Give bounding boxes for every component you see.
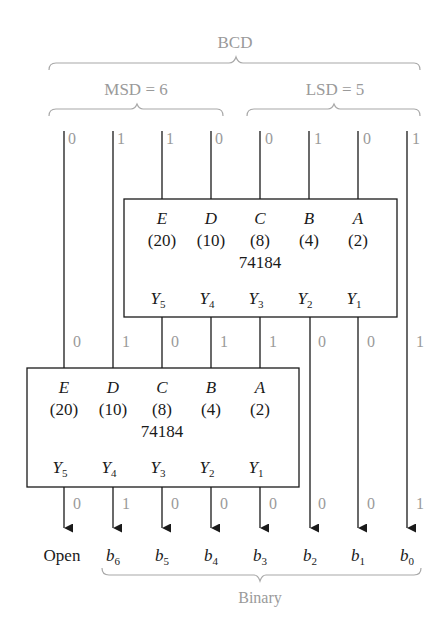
mid-bit: 1 xyxy=(122,333,130,350)
bcd-bit: 0 xyxy=(265,130,273,147)
chip-upper-74184: E D C B A (20) (10) (8) (4) (2) 74184 Y5… xyxy=(124,199,397,317)
b1-label: b1 xyxy=(351,546,365,567)
chip-part-number: 74184 xyxy=(141,422,184,441)
msd-brace xyxy=(49,104,223,116)
weight-d: (10) xyxy=(197,231,225,250)
mid-bits: 0 1 0 1 1 0 0 1 xyxy=(73,333,424,350)
bcd-to-binary-converter-diagram: BCD MSD = 6 LSD = 5 0 1 1 0 0 1 0 1 E D … xyxy=(0,0,441,634)
mid-bit: 1 xyxy=(416,333,424,350)
mid-bit: 0 xyxy=(171,333,179,350)
weight-a: (2) xyxy=(250,400,270,419)
b0-label: b0 xyxy=(400,546,415,567)
weight-c: (8) xyxy=(152,400,172,419)
output-bit: 1 xyxy=(416,495,424,512)
pin-c: C xyxy=(156,378,168,397)
pin-b: B xyxy=(206,378,217,397)
mid-bit: 0 xyxy=(367,333,375,350)
output-bit: 1 xyxy=(122,495,130,512)
mid-bit: 1 xyxy=(269,333,277,350)
bcd-input-bits: 0 1 1 0 0 1 0 1 xyxy=(68,130,420,147)
b4-label: b4 xyxy=(204,546,219,567)
output-wires xyxy=(64,487,260,528)
pin-c: C xyxy=(254,209,266,228)
bcd-label: BCD xyxy=(218,33,253,52)
pin-a: A xyxy=(352,209,364,228)
weight-e: (20) xyxy=(50,400,78,419)
output-labels: Open b6 b5 b4 b3 b2 b1 b0 xyxy=(44,546,415,567)
open-label: Open xyxy=(44,546,81,565)
lsd-label: LSD = 5 xyxy=(306,80,365,99)
output-bit: 0 xyxy=(318,495,326,512)
b5-label: b5 xyxy=(155,546,170,567)
pin-a: A xyxy=(254,378,266,397)
b3-label: b3 xyxy=(253,546,268,567)
weight-b: (4) xyxy=(201,400,221,419)
pin-d: D xyxy=(204,209,218,228)
lsd-brace xyxy=(247,104,420,116)
mid-bit: 0 xyxy=(73,333,81,350)
bcd-bit: 0 xyxy=(363,130,371,147)
weight-e: (20) xyxy=(148,231,176,250)
mid-bit: 1 xyxy=(220,333,228,350)
b6-label: b6 xyxy=(106,546,121,567)
pin-d: D xyxy=(106,378,120,397)
output-bit: 0 xyxy=(220,495,228,512)
bcd-brace xyxy=(49,57,420,70)
bcd-bit: 0 xyxy=(68,130,76,147)
pin-e: E xyxy=(58,378,70,397)
bcd-bit: 1 xyxy=(314,130,322,147)
binary-brace xyxy=(102,568,421,581)
msd-label: MSD = 6 xyxy=(104,80,167,99)
weight-c: (8) xyxy=(250,231,270,250)
output-bits: 0 1 0 0 0 0 0 1 xyxy=(73,495,424,512)
chip-part-number: 74184 xyxy=(239,253,282,272)
weight-d: (10) xyxy=(99,400,127,419)
mid-bit: 0 xyxy=(318,333,326,350)
bcd-bit: 1 xyxy=(117,130,125,147)
b2-label: b2 xyxy=(303,546,317,567)
output-bit: 0 xyxy=(171,495,179,512)
weight-a: (2) xyxy=(348,231,368,250)
output-bit: 0 xyxy=(367,495,375,512)
binary-label: Binary xyxy=(238,589,282,607)
pin-e: E xyxy=(156,209,168,228)
bcd-bit: 1 xyxy=(412,130,420,147)
output-bit: 0 xyxy=(73,495,81,512)
pin-b: B xyxy=(304,209,315,228)
bcd-bit: 0 xyxy=(215,130,223,147)
output-bit: 0 xyxy=(269,495,277,512)
weight-b: (4) xyxy=(299,231,319,250)
chip-lower-74184: E D C B A (20) (10) (8) (4) (2) 74184 Y5… xyxy=(27,368,299,487)
bcd-bit: 1 xyxy=(166,130,174,147)
